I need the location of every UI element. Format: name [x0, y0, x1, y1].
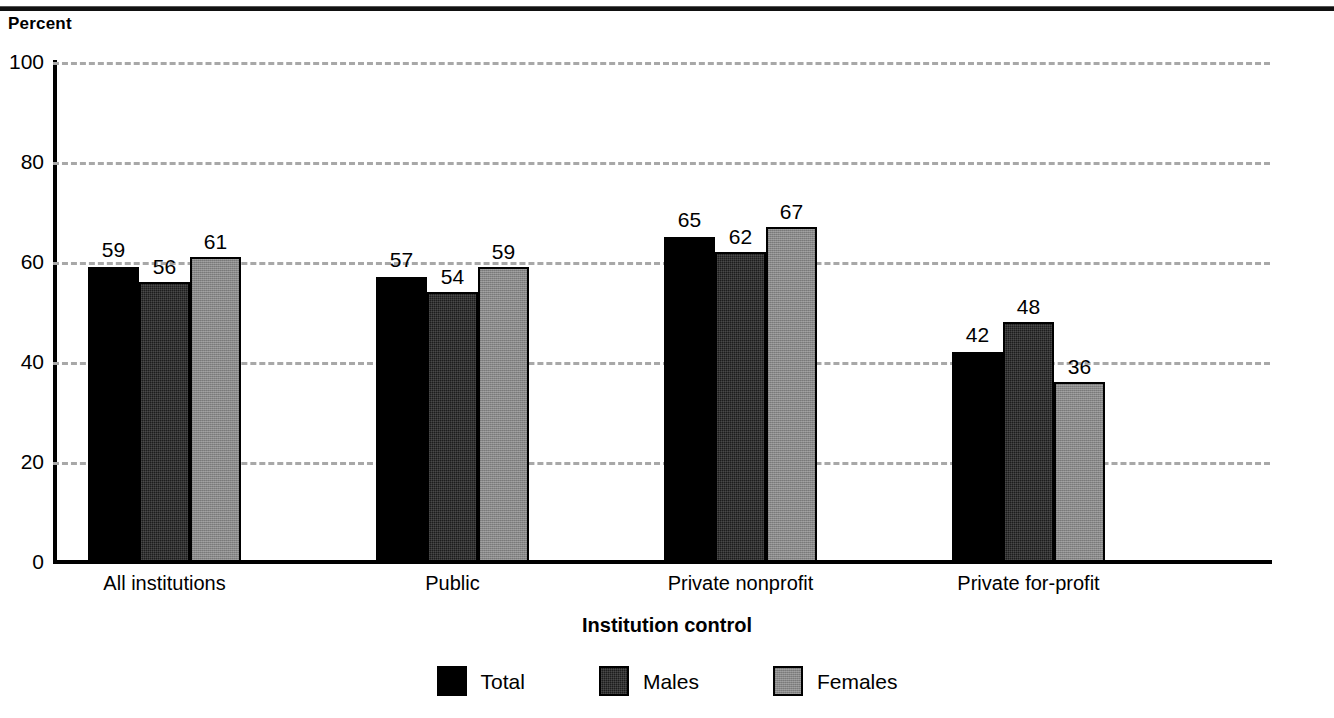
bar-group: 656267	[664, 62, 817, 562]
y-tick-label-60: 60	[0, 251, 44, 272]
plot-area: 595661575459656267424836	[53, 62, 1270, 562]
legend-label: Females	[817, 671, 898, 692]
x-tick-label: All institutions	[103, 572, 225, 595]
bar[interactable]: 57	[376, 277, 427, 562]
y-tick-label-20: 20	[0, 451, 44, 472]
bar-group: 595661	[88, 62, 241, 562]
bar[interactable]: 67	[766, 227, 817, 562]
x-tick-label: Public	[425, 572, 479, 595]
gridline-0	[53, 562, 1270, 565]
bar-value-label: 36	[1068, 356, 1091, 377]
bar-group: 424836	[952, 62, 1105, 562]
y-tick-label-0: 0	[0, 551, 44, 572]
bar[interactable]: 59	[88, 267, 139, 562]
bar-value-label: 59	[102, 239, 125, 260]
bar[interactable]: 59	[478, 267, 529, 562]
bar-value-label: 65	[678, 209, 701, 230]
bar-value-label: 67	[780, 201, 803, 222]
legend-swatch-icon	[437, 666, 467, 696]
y-tick-label-80: 80	[0, 151, 44, 172]
y-tick-label-100: 100	[0, 51, 44, 72]
bar[interactable]: 42	[952, 352, 1003, 562]
bar-value-label: 59	[492, 241, 515, 262]
bar-value-label: 42	[966, 324, 989, 345]
bar[interactable]: 62	[715, 252, 766, 562]
bar[interactable]: 65	[664, 237, 715, 562]
bar[interactable]: 48	[1003, 322, 1054, 562]
bar-group: 575459	[376, 62, 529, 562]
legend-item[interactable]: Females	[773, 666, 898, 696]
bar-value-label: 62	[729, 226, 752, 247]
bar[interactable]: 56	[139, 282, 190, 562]
legend-item[interactable]: Males	[599, 666, 699, 696]
legend-swatch-icon	[599, 666, 629, 696]
bar[interactable]: 61	[190, 257, 241, 562]
bar[interactable]: 36	[1054, 382, 1105, 562]
bar-value-label: 61	[204, 231, 227, 252]
x-tick-label: Private nonprofit	[668, 572, 814, 595]
bar-value-label: 54	[441, 266, 464, 287]
chart-legend: TotalMalesFemales	[0, 666, 1334, 696]
x-tick-label: Private for-profit	[957, 572, 1099, 595]
legend-label: Total	[481, 671, 525, 692]
header-rule	[0, 6, 1334, 11]
bar-value-label: 57	[390, 249, 413, 270]
x-axis-title: Institution control	[0, 614, 1334, 637]
bar-value-label: 56	[153, 256, 176, 277]
y-axis-unit-label: Percent	[8, 14, 72, 34]
legend-item[interactable]: Total	[437, 666, 525, 696]
legend-label: Males	[643, 671, 699, 692]
y-tick-label-40: 40	[0, 351, 44, 372]
legend-swatch-icon	[773, 666, 803, 696]
bar[interactable]: 54	[427, 292, 478, 562]
bar-value-label: 48	[1017, 296, 1040, 317]
